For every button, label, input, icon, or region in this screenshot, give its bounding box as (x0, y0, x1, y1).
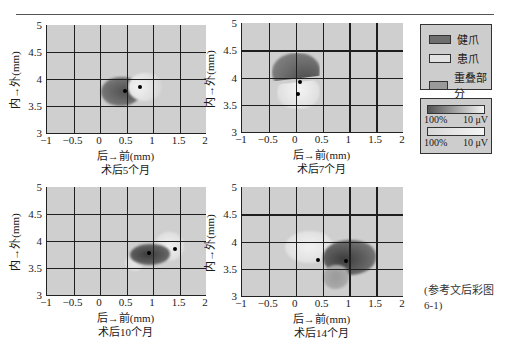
center-marker (123, 89, 127, 93)
scale-max-label: 10 μV (463, 114, 488, 125)
x-tick-label: 1 (149, 296, 155, 308)
panel-caption: 术后5个月 (101, 161, 151, 177)
y-axis-label: 内→外(mm) (201, 49, 217, 109)
y-tick-label: 3.5 (20, 100, 42, 112)
x-tick-label: 2 (399, 297, 405, 309)
gradient-bar-healthy (427, 105, 485, 114)
gridline-horizontal (47, 79, 206, 80)
gridline-horizontal (242, 269, 403, 270)
y-tick-label: 5 (215, 181, 237, 193)
y-tick-label: 3.5 (215, 99, 237, 111)
plot-area (46, 187, 206, 296)
x-tick-label: 0.5 (119, 134, 133, 146)
x-tick-label: 2 (399, 133, 405, 145)
gridline-horizontal (242, 214, 403, 215)
swatch-affected (429, 54, 451, 63)
scale-max-label: 10 μV (463, 137, 488, 148)
x-tick-label: 0 (96, 296, 102, 308)
x-tick-label: 2 (202, 134, 208, 146)
gridline-horizontal (47, 52, 206, 53)
y-tick-label: 4 (20, 73, 42, 85)
center-marker (298, 80, 302, 84)
gridline-horizontal (242, 105, 403, 106)
x-tick-label: 1.5 (172, 134, 186, 146)
x-tick-label: −0.5 (63, 134, 83, 146)
x-tick-label: 2 (202, 296, 208, 308)
y-tick-label: 3.5 (20, 262, 42, 274)
y-tick-label: 4.5 (20, 208, 42, 220)
legend-label: 健爪 (457, 31, 479, 47)
legend-item-affected: 患爪 (429, 50, 479, 66)
legend-item-overlap: 重叠部分 (429, 69, 491, 101)
y-tick-label: 3 (215, 126, 237, 138)
center-marker (173, 247, 177, 251)
swatch-healthy (429, 35, 451, 44)
panel-caption: 术后14个月 (294, 324, 349, 340)
x-tick-label: 1 (346, 297, 352, 309)
x-tick-label: −0.5 (63, 296, 83, 308)
legend-label: 患爪 (457, 50, 479, 66)
x-tick-label: 1.5 (368, 297, 382, 309)
x-tick-label: 1 (149, 134, 155, 146)
y-tick-label: 4 (215, 236, 237, 248)
x-tick-label: −0.5 (258, 297, 278, 309)
panel-caption: 术后10个月 (98, 323, 153, 339)
panel-caption: 术后7个月 (297, 160, 347, 176)
y-tick-label: 5 (20, 181, 42, 193)
legend-scales: 100% 10 μV 100% 10 μV (420, 98, 492, 154)
center-marker (316, 258, 320, 262)
center-marker (138, 85, 142, 89)
legend-regions: 健爪 患爪 重叠部分 (420, 24, 492, 90)
x-tick-label: 0.5 (315, 297, 329, 309)
y-axis-label: 内→外(mm) (6, 212, 22, 272)
y-tick-label: 4.5 (215, 208, 237, 220)
plot-area (241, 187, 403, 297)
x-tick-label: 0 (292, 297, 298, 309)
x-tick-label: 1 (346, 133, 352, 145)
top-rule (16, 14, 494, 15)
y-tick-label: 4.5 (20, 46, 42, 58)
gridline-horizontal (242, 242, 403, 243)
y-tick-label: 4 (215, 72, 237, 84)
y-tick-label: 3 (20, 289, 42, 301)
y-tick-label: 4.5 (215, 44, 237, 56)
gridline-horizontal (47, 268, 206, 269)
swatch-overlap (429, 81, 448, 90)
reference-note-line1: (参考文后彩图 (424, 283, 494, 298)
y-tick-label: 4 (20, 235, 42, 247)
scale-min-label: 100% (424, 114, 447, 125)
scale-min-label: 100% (424, 137, 447, 148)
y-tick-label: 3.5 (215, 263, 237, 275)
gradient-bar-affected (427, 127, 485, 136)
gridline-horizontal (47, 106, 206, 107)
y-tick-label: 3 (20, 127, 42, 139)
y-axis-label: 内→外(mm) (6, 50, 22, 110)
x-tick-label: 1.5 (172, 296, 186, 308)
center-marker (296, 92, 300, 96)
x-tick-label: 0 (292, 133, 298, 145)
y-tick-label: 5 (215, 17, 237, 29)
x-tick-label: 0.5 (119, 296, 133, 308)
x-tick-label: 1.5 (368, 133, 382, 145)
gridline-horizontal (47, 241, 206, 242)
activation-region (128, 73, 162, 101)
y-axis-label: 内→外(mm) (201, 213, 217, 273)
activation-region (130, 244, 170, 266)
x-tick-label: 0.5 (315, 133, 329, 145)
gridline-horizontal (242, 78, 403, 79)
reference-note-line2: 6-1) (424, 298, 494, 313)
legend-item-healthy: 健爪 (429, 31, 479, 47)
gridline-horizontal (242, 50, 403, 51)
legend-label: 重叠部分 (454, 69, 491, 101)
reference-note: (参考文后彩图 6-1) (424, 283, 494, 313)
plot-area (46, 25, 206, 134)
y-tick-label: 3 (215, 290, 237, 302)
x-tick-label: −0.5 (258, 133, 278, 145)
plot-area (241, 23, 403, 133)
x-tick-label: 0 (96, 134, 102, 146)
gridline-horizontal (47, 214, 206, 215)
center-marker (147, 251, 151, 255)
center-marker (344, 259, 348, 263)
y-tick-label: 5 (20, 19, 42, 31)
